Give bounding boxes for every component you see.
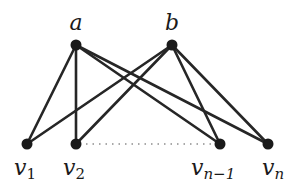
edge-b-vn <box>172 45 268 144</box>
edge-b-vn-1 <box>172 45 220 144</box>
edge-b-v2 <box>76 45 172 144</box>
node-label-v2: v2 <box>63 155 85 183</box>
node-label-a: a <box>69 10 82 35</box>
edge-a-vn <box>76 45 268 144</box>
node-vn <box>263 139 274 150</box>
node-v2 <box>71 139 82 150</box>
node-vn-1 <box>215 139 226 150</box>
node-b <box>167 40 178 51</box>
edges <box>27 45 268 144</box>
node-label-b: b <box>165 10 179 35</box>
edge-a-v1 <box>27 45 76 144</box>
node-a <box>71 40 82 51</box>
node-label-v1: v1 <box>14 155 36 183</box>
bipartite-graph-diagram: a b v1 v2 vn−1 vn <box>0 0 307 193</box>
node-label-vn-1: vn−1 <box>191 155 235 183</box>
node-v1 <box>22 139 33 150</box>
node-label-vn: vn <box>262 155 284 183</box>
